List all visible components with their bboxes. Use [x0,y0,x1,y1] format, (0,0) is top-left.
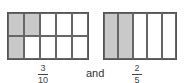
fraction-label-3-10: 3 10 [38,64,48,83]
numerator: 2 [134,64,139,73]
denominator: 5 [134,76,139,83]
fraction-label-2-5: 2 5 [132,64,142,83]
unshaded-cell [40,13,56,36]
unshaded-cell [24,36,40,59]
shaded-cell [118,13,132,59]
numerator: 3 [41,64,46,73]
unshaded-cell [72,13,88,36]
unshaded-cell [56,13,72,36]
denominator: 10 [38,76,48,83]
shaded-cell [8,36,24,59]
fraction-grid-2-5 [103,12,177,60]
connector-text: and [86,67,104,79]
shaded-cell [104,13,118,59]
fraction-grid-3-10 [7,12,89,60]
unshaded-cell [40,36,56,59]
unshaded-cell [162,13,176,59]
unshaded-cell [147,13,161,59]
unshaded-cell [72,36,88,59]
unshaded-cell [56,36,72,59]
shaded-cell [24,13,40,36]
shaded-cell [8,13,24,36]
unshaded-cell [133,13,147,59]
